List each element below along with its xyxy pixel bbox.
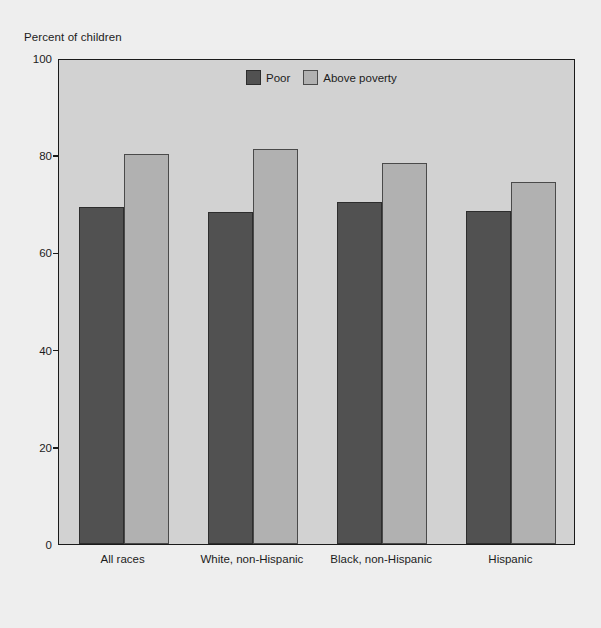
- chart-legend: PoorAbove poverty: [246, 70, 397, 85]
- x-axis-category-label: All races: [101, 553, 145, 565]
- legend-swatch-icon: [303, 70, 318, 85]
- legend-label: Above poverty: [323, 72, 397, 84]
- bar: [124, 154, 169, 544]
- y-axis-tick-labels: 020406080100: [10, 59, 52, 545]
- plot-area: [58, 59, 575, 545]
- x-axis-category-label: Hispanic: [488, 553, 532, 565]
- legend-entry: Above poverty: [303, 70, 397, 85]
- bar: [79, 207, 124, 544]
- bar: [337, 202, 382, 544]
- legend-label: Poor: [266, 72, 290, 84]
- chart-figure: Percent of children 020406080100 PoorAbo…: [0, 0, 601, 628]
- y-axis-tick-label: 40: [12, 345, 52, 357]
- y-axis-tick-label: 20: [12, 442, 52, 454]
- bar: [382, 163, 427, 544]
- legend-swatch-icon: [246, 70, 261, 85]
- y-axis-tick-label: 60: [12, 247, 52, 259]
- x-axis-category-label: Black, non-Hispanic: [330, 553, 432, 565]
- x-axis-category-label: White, non-Hispanic: [200, 553, 303, 565]
- y-axis-tick-label: 80: [12, 150, 52, 162]
- bar: [466, 211, 511, 544]
- y-axis-tick-label: 100: [12, 53, 52, 65]
- bar: [253, 149, 298, 544]
- y-axis-title: Percent of children: [24, 31, 122, 43]
- y-axis-tick-label: 0: [12, 539, 52, 551]
- legend-entry: Poor: [246, 70, 290, 85]
- bars-container: [59, 60, 574, 544]
- bar: [208, 212, 253, 544]
- bar: [511, 182, 556, 544]
